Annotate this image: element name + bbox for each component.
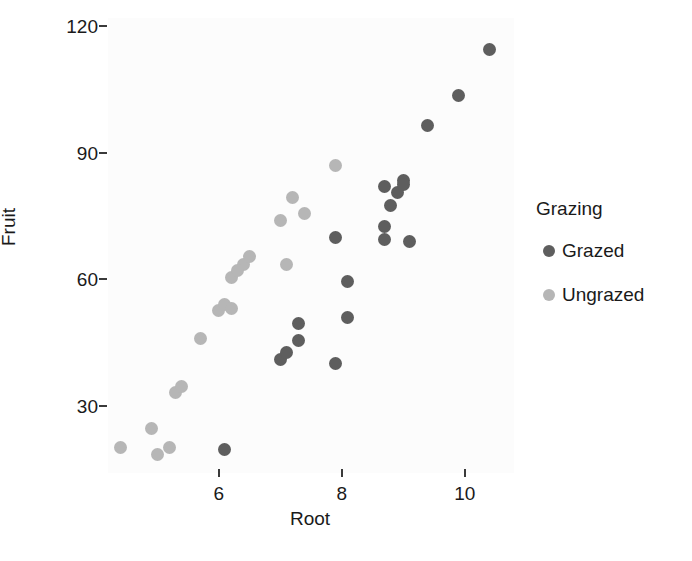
data-point <box>341 311 354 324</box>
data-point <box>114 441 127 454</box>
x-tick-mark <box>218 469 220 477</box>
legend-label: Grazed <box>562 240 624 262</box>
x-tick-label: 8 <box>336 484 347 503</box>
x-tick-mark <box>341 469 343 477</box>
x-tick-mark <box>464 469 466 477</box>
legend-entries: GrazedUngrazed <box>536 236 686 310</box>
y-tick-mark <box>99 25 107 27</box>
data-point <box>329 231 342 244</box>
y-tick-mark <box>99 152 107 154</box>
y-tick-mark <box>99 278 107 280</box>
data-point <box>145 422 158 435</box>
legend-title: Grazing <box>536 198 686 220</box>
legend-label: Ungrazed <box>562 284 644 306</box>
y-tick-mark <box>99 405 107 407</box>
data-point <box>403 235 416 248</box>
data-point <box>151 448 164 461</box>
data-point <box>274 214 287 227</box>
legend-key <box>536 289 562 301</box>
y-tick-label: 60 <box>20 270 98 289</box>
y-tick-label: 90 <box>20 143 98 162</box>
y-axis-title: Fruit <box>0 208 20 246</box>
x-tick-label: 6 <box>213 484 224 503</box>
y-tick-label: 120 <box>20 17 98 36</box>
data-point <box>231 264 244 277</box>
x-tick-label: 10 <box>454 484 475 503</box>
data-point <box>483 43 496 56</box>
data-point <box>280 258 293 271</box>
y-tick-label: 30 <box>20 396 98 415</box>
data-point <box>292 334 305 347</box>
data-point <box>243 250 256 263</box>
legend-dot-icon <box>543 245 555 257</box>
legend-entry-grazed: Grazed <box>536 236 686 266</box>
data-point <box>225 302 238 315</box>
data-point <box>286 191 299 204</box>
legend: Grazing GrazedUngrazed <box>536 198 686 324</box>
legend-dot-icon <box>543 289 555 301</box>
scatter-plot: 306090120 6810 Root Fruit Grazing Grazed… <box>0 0 692 561</box>
x-axis-title: Root <box>0 508 620 530</box>
data-point <box>194 332 207 345</box>
legend-key <box>536 245 562 257</box>
legend-entry-ungrazed: Ungrazed <box>536 280 686 310</box>
plot-panel <box>108 18 514 473</box>
data-point <box>378 233 391 246</box>
data-point <box>329 357 342 370</box>
data-point <box>329 159 342 172</box>
data-point <box>397 178 410 191</box>
